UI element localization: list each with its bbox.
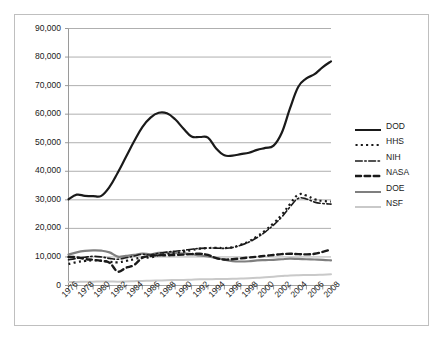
y-axis-tick-label: 40,000 xyxy=(13,166,61,175)
legend-label-nasa: NASA xyxy=(386,167,409,177)
legend-swatch-hhs xyxy=(355,136,381,146)
y-axis-tick-label: 90,000 xyxy=(13,24,61,33)
series-line-dod xyxy=(69,61,332,199)
legend-swatch-nsf xyxy=(355,198,381,208)
y-axis-tick-label: 30,000 xyxy=(13,195,61,204)
chart-container: 010,00020,00030,00040,00050,00060,00070,… xyxy=(0,0,447,343)
y-axis-tick-label: 50,000 xyxy=(13,138,61,147)
y-axis-tick-label: 80,000 xyxy=(13,52,61,61)
legend-item-nih[interactable]: NIH xyxy=(355,149,423,165)
legend-swatch-doe xyxy=(355,183,381,193)
y-axis-tick-label: 60,000 xyxy=(13,109,61,118)
legend-item-hhs[interactable]: HHS xyxy=(355,134,423,150)
y-axis-tick-label: 10,000 xyxy=(13,252,61,261)
legend-swatch-nih xyxy=(355,152,381,162)
chart-legend: DODHHSNIHNASADOENSF xyxy=(355,118,423,211)
legend-label-nsf: NSF xyxy=(386,198,403,208)
legend-item-dod[interactable]: DOD xyxy=(355,118,423,134)
legend-swatch-dod xyxy=(355,121,381,131)
legend-label-doe: DOE xyxy=(386,183,404,193)
legend-item-nasa[interactable]: NASA xyxy=(355,165,423,181)
legend-swatch-nasa xyxy=(355,167,381,177)
legend-item-nsf[interactable]: NSF xyxy=(355,196,423,212)
legend-label-nih: NIH xyxy=(386,152,401,162)
y-axis-tick-label: 70,000 xyxy=(13,81,61,90)
legend-label-dod: DOD xyxy=(386,121,405,131)
series-line-doe xyxy=(69,250,332,261)
y-axis-tick-label: 20,000 xyxy=(13,223,61,232)
legend-label-hhs: HHS xyxy=(386,136,404,146)
legend-item-doe[interactable]: DOE xyxy=(355,180,423,196)
y-axis-tick-label: 0 xyxy=(13,281,61,290)
